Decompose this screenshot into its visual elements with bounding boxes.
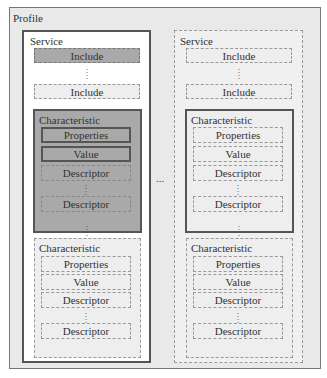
- characteristic-label: Characteristic: [39, 242, 100, 254]
- value-label: Value: [73, 148, 98, 160]
- service-label: Service: [180, 35, 213, 47]
- vertical-ellipsis: ····: [237, 225, 241, 237]
- properties-label: Properties: [64, 258, 109, 270]
- profile-label: Profile: [13, 12, 43, 24]
- descriptor-box: Descriptor: [193, 323, 283, 339]
- descriptor-label: Descriptor: [63, 198, 109, 210]
- descriptor-box: Descriptor: [193, 165, 283, 181]
- include-label: Include: [71, 86, 104, 98]
- include-label: Include: [223, 50, 256, 62]
- properties-box: Properties: [193, 256, 283, 272]
- properties-box: Properties: [41, 256, 131, 272]
- include-label: Include: [223, 86, 256, 98]
- properties-label: Properties: [64, 129, 109, 141]
- descriptor-label: Descriptor: [215, 167, 261, 179]
- descriptor-box: Descriptor: [41, 292, 131, 308]
- descriptor-box: Descriptor: [41, 165, 131, 181]
- characteristic-label: Characteristic: [191, 242, 252, 254]
- descriptor-label: Descriptor: [215, 294, 261, 306]
- value-label: Value: [225, 148, 250, 160]
- descriptor-box: Descriptor: [41, 196, 131, 212]
- value-label: Value: [225, 276, 250, 288]
- properties-box: Properties: [41, 127, 131, 143]
- value-box: Value: [193, 146, 283, 162]
- value-label: Value: [73, 276, 98, 288]
- vertical-ellipsis: ····: [85, 68, 89, 80]
- descriptor-label: Descriptor: [215, 325, 261, 337]
- descriptor-box: Descriptor: [41, 323, 131, 339]
- vertical-ellipsis: ····: [85, 225, 89, 237]
- include-box: Include: [186, 48, 292, 63]
- value-box: Value: [41, 274, 131, 290]
- value-box: Value: [41, 146, 131, 162]
- include-label: Include: [71, 50, 104, 62]
- properties-label: Properties: [216, 129, 261, 141]
- descriptor-box: Descriptor: [193, 292, 283, 308]
- descriptor-label: Descriptor: [215, 198, 261, 210]
- service-label: Service: [30, 35, 63, 47]
- characteristic-label: Characteristic: [191, 114, 252, 126]
- horizontal-ellipsis: ...: [156, 172, 164, 184]
- vertical-ellipsis: ····: [237, 68, 241, 80]
- properties-label: Properties: [216, 258, 261, 270]
- value-box: Value: [193, 274, 283, 290]
- properties-box: Properties: [193, 127, 283, 143]
- vertical-ellipsis: ····: [236, 184, 240, 196]
- include-box: Include: [34, 84, 140, 99]
- descriptor-label: Descriptor: [63, 325, 109, 337]
- descriptor-label: Descriptor: [63, 294, 109, 306]
- include-box-highlighted: Include: [34, 48, 140, 63]
- descriptor-box: Descriptor: [193, 196, 283, 212]
- vertical-ellipsis: ····: [84, 184, 88, 196]
- descriptor-label: Descriptor: [63, 167, 109, 179]
- characteristic-label: Characteristic: [39, 114, 100, 126]
- include-box: Include: [186, 84, 292, 99]
